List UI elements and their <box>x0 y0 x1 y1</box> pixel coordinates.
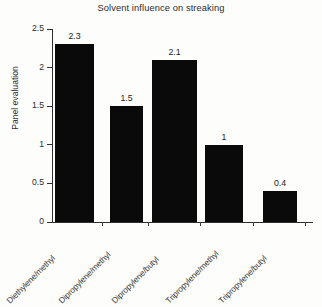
y-tick-mark <box>47 67 53 68</box>
x-axis-category-label: Diethylene/methyl <box>4 253 57 306</box>
y-tick-mark <box>47 144 53 145</box>
y-tick-label: 1.5 <box>0 100 44 110</box>
bar-value-label: 2.3 <box>41 31 108 41</box>
y-tick-label: 0.5 <box>0 177 44 187</box>
bar <box>110 106 143 222</box>
y-axis-label: Panel evaluation <box>10 43 20 153</box>
y-tick-label: 1 <box>0 139 44 149</box>
bar-chart-figure: Solvent influence on streaking Panel eva… <box>0 0 322 307</box>
x-tick-mark <box>200 222 201 226</box>
x-tick-mark <box>148 222 149 226</box>
y-tick-mark <box>47 183 53 184</box>
x-axis-category-label: Tripropylene/methyl <box>163 249 220 306</box>
y-tick-label: 2.5 <box>0 23 44 33</box>
x-axis-category-label: Tripropylene/butyl <box>216 253 268 305</box>
bar-value-label: 1 <box>191 132 257 142</box>
x-tick-mark <box>305 222 306 226</box>
bar-value-label: 1.5 <box>96 93 157 103</box>
x-axis-category-label: Dipropylene/methyl <box>56 250 112 306</box>
x-tick-mark <box>102 222 103 226</box>
bar <box>55 44 94 222</box>
y-tick-label: 0 <box>0 216 44 226</box>
y-tick-mark <box>47 29 53 30</box>
chart-title: Solvent influence on streaking <box>0 3 322 13</box>
x-axis-category-label: Dipropylene/butyl <box>109 254 160 305</box>
y-tick-label: 2 <box>0 62 44 72</box>
y-tick-mark <box>47 222 53 223</box>
x-tick-mark <box>253 222 254 226</box>
y-tick-mark <box>47 106 53 107</box>
bar <box>263 191 297 222</box>
bar <box>205 145 243 222</box>
bar-value-label: 2.1 <box>138 47 211 57</box>
y-axis-line <box>52 29 53 223</box>
bar-value-label: 0.4 <box>249 178 311 188</box>
